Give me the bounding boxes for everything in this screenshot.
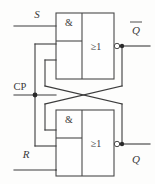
- qbar-output-label: Q: [132, 24, 140, 36]
- cp-input-label: CP: [14, 81, 27, 92]
- bottom-gate-and-symbol: &: [65, 114, 73, 125]
- logic-circuit-diagram: & ≥1 & ≥1: [0, 0, 155, 184]
- top-gate-and-symbol: &: [65, 17, 73, 28]
- top-gate: & ≥1: [56, 13, 114, 79]
- qbar-junction-dot: [120, 44, 124, 48]
- bottom-output: [114, 141, 150, 146]
- bottom-gate: & ≥1: [56, 110, 114, 176]
- cp-junction-dot: [33, 93, 38, 98]
- circuit-svg: & ≥1 & ≥1: [0, 0, 155, 184]
- q-output-label: Q: [132, 153, 140, 165]
- bottom-output-inversion-bubble: [114, 141, 119, 146]
- top-output-inversion-bubble: [114, 43, 119, 48]
- top-output: [114, 43, 150, 48]
- bottom-gate-or-symbol: ≥1: [91, 138, 102, 149]
- qbar-output-label-group: Q: [130, 22, 142, 36]
- q-junction-dot: [120, 142, 124, 146]
- s-input-label: S: [34, 8, 40, 20]
- r-input-label: R: [22, 148, 30, 160]
- top-gate-or-symbol: ≥1: [91, 41, 102, 52]
